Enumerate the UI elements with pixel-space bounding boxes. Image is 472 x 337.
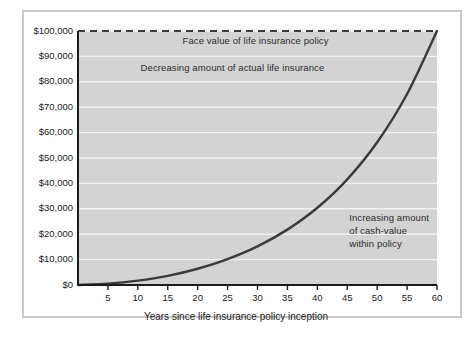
chart-figure: $0$10,000$20,000$30,000$40,000$50,000$60… [0, 0, 472, 337]
annotation-decreasing-insurance: Decreasing amount of actual life insuran… [141, 62, 325, 73]
x-axis-tick-label: 45 [332, 292, 362, 303]
x-axis-tick-label: 55 [392, 292, 422, 303]
y-axis-tick-label: $90,000 [39, 50, 73, 61]
y-axis-tick-label: $70,000 [39, 101, 73, 112]
y-axis-tick-label: $100,000 [33, 25, 73, 36]
y-axis-tick-label: $60,000 [39, 126, 73, 137]
y-axis-tick-label: $20,000 [39, 228, 73, 239]
x-axis-tick-label: 30 [243, 292, 273, 303]
x-axis-tick-label: 50 [362, 292, 392, 303]
x-axis-tick-label: 15 [153, 292, 183, 303]
x-axis-tick-label: 35 [272, 292, 302, 303]
y-axis-tick-label: $40,000 [39, 177, 73, 188]
y-axis-tick-label: $30,000 [39, 202, 73, 213]
annotation-line-2: of cash-value [349, 224, 429, 237]
y-axis-tick-label: $0 [62, 279, 73, 290]
y-axis-tick-label: $10,000 [39, 253, 73, 264]
x-axis-tick-label: 20 [183, 292, 213, 303]
y-axis-tick-label: $80,000 [39, 75, 73, 86]
annotation-increasing-cash-value: Increasing amount of cash-value within p… [349, 211, 429, 250]
x-axis-tick-label: 25 [213, 292, 243, 303]
x-axis-tick-label: 40 [302, 292, 332, 303]
x-axis-title: Years since life insurance policy incept… [0, 311, 472, 322]
x-axis-tick-label: 10 [123, 292, 153, 303]
x-axis-tick-label: 60 [422, 292, 452, 303]
x-axis-tick-label: 5 [93, 292, 123, 303]
annotation-line-1: Increasing amount [349, 211, 429, 224]
y-axis-tick-label: $50,000 [39, 152, 73, 163]
annotation-face-value: Face value of life insurance policy [183, 35, 329, 46]
annotation-line-3: within policy [349, 237, 429, 250]
